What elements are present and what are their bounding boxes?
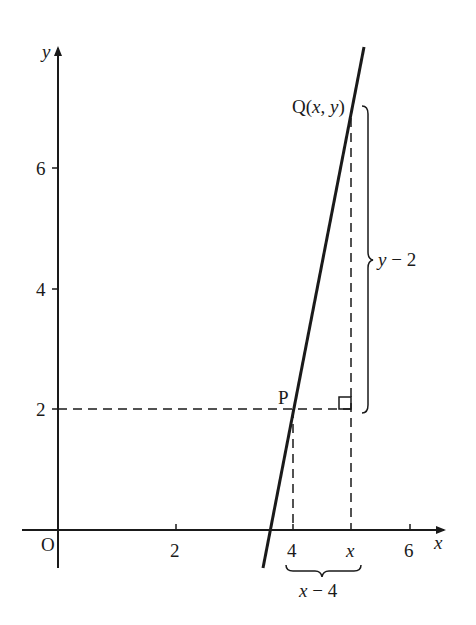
x-variable-tick-label: x [345,540,355,561]
point-p-label: P [278,387,289,408]
x-tick-label-2: 2 [170,540,180,561]
point-q-label: Q(x, y) [292,96,345,118]
y-tick-label-2: 2 [36,399,46,420]
y-axis: y 2 4 6 [36,41,58,568]
origin-label: O [41,534,55,555]
x-axis: x O 2 4 6 x [22,524,444,561]
gradient-diagram: y 2 4 6 x O 2 4 6 x P Q(x, y) y − 2 x − … [0,0,476,625]
construction-lines [58,118,351,530]
straight-line-pq [263,47,364,568]
vertical-brace-label: y − 2 [376,249,416,270]
vertical-brace [362,106,373,413]
x-axis-label: x [433,532,443,553]
x-tick-label-6: 6 [404,540,414,561]
horizontal-brace [286,565,361,577]
y-axis-label: y [40,41,51,62]
right-angle-marker [339,397,351,409]
y-tick-label-4: 4 [36,279,46,300]
x-tick-label-4: 4 [287,540,297,561]
horizontal-brace-label: x − 4 [298,580,338,601]
y-tick-label-6: 6 [36,158,46,179]
